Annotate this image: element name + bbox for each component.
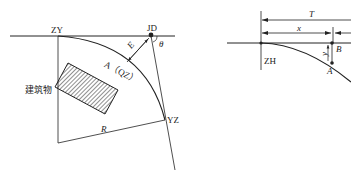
a-label: A (326, 66, 333, 76)
x-label: x (296, 23, 301, 33)
b-point (330, 41, 334, 45)
e-label: E (125, 39, 137, 51)
x-arrow-left (262, 31, 268, 35)
jd-point (149, 33, 154, 38)
a-point (330, 61, 334, 65)
x-right-arrow (335, 31, 341, 35)
r-radius-line (58, 120, 165, 143)
y-label: y (319, 52, 329, 57)
t-label: T (309, 9, 315, 19)
x-arrow-right (325, 31, 331, 35)
t-arrow-head (262, 18, 268, 22)
zh-point (259, 41, 262, 44)
right-figure: T x y B A ZH (227, 9, 351, 82)
yz-label: YZ (167, 115, 179, 125)
second-tangent-line (151, 36, 175, 170)
a-qz-label: A（QZ） (103, 59, 140, 85)
zh-label: ZH (264, 56, 276, 66)
theta-arc (153, 36, 157, 42)
r-label: R (100, 124, 107, 134)
b-label: B (336, 44, 342, 54)
external-arrow (138, 39, 148, 50)
diagram-canvas: ZY JD θ E A（QZ） 建筑物 R YZ T x y B A ZH (0, 0, 351, 191)
jd-label: JD (147, 23, 158, 33)
zy-label: ZY (51, 25, 63, 35)
theta-label: θ (159, 39, 164, 49)
building-label: 建筑物 (25, 84, 52, 95)
external-arrow-2 (128, 50, 138, 61)
left-figure: ZY JD θ E A（QZ） 建筑物 R YZ (10, 23, 179, 170)
